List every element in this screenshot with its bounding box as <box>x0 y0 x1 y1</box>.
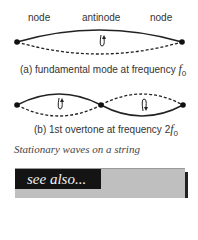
caption-fundamental: (a) fundamental mode at frequency f0 <box>20 62 186 78</box>
node-point-right <box>179 39 185 45</box>
node-point-left <box>14 39 20 45</box>
oscillation-arrow-down-icon <box>142 99 148 111</box>
figure-title: Stationary waves on a string <box>14 143 140 155</box>
caption-first-overtone: (b) 1st overtone at frequency 2f0 <box>34 122 178 138</box>
see-also-box-shadow <box>185 172 188 198</box>
first-overtone-diagram <box>14 94 186 116</box>
see-also-header: see also... <box>15 169 101 189</box>
oscillation-arrow-icon <box>100 35 106 46</box>
oscillation-arrow-up-icon <box>58 98 64 109</box>
fundamental-mode-diagram <box>14 30 185 54</box>
